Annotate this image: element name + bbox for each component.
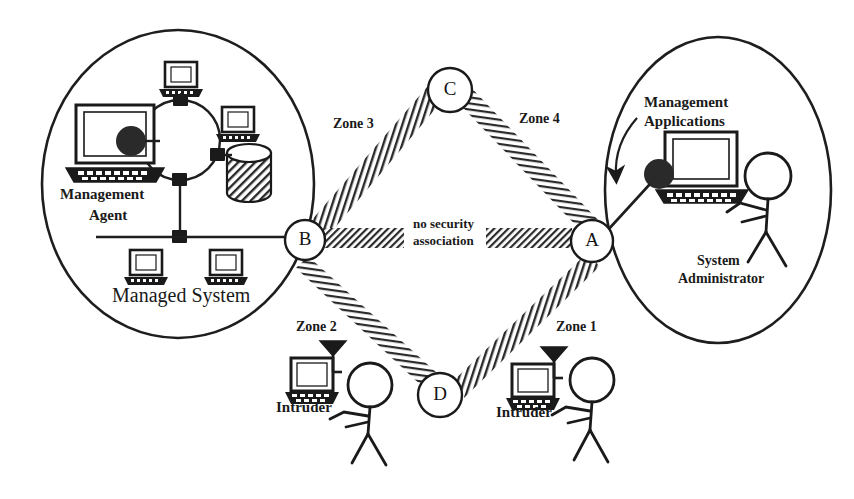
management-applications-label-line1: Management [644, 94, 728, 110]
workstation-icon-bottom-right [204, 250, 248, 285]
intruder-laptop-icon-left [285, 341, 346, 404]
no-security-association-line2: association [413, 233, 474, 248]
system-administrator-label-line2: Administrator [678, 271, 764, 286]
workstation-icon-right [216, 107, 260, 142]
intruder-stick-figure-icon-left [330, 363, 392, 465]
zone-1-label: Zone 1 [556, 319, 597, 334]
zone-4-label: Zone 4 [519, 111, 560, 126]
no-security-association-line1: no security [413, 216, 475, 231]
node-b[interactable]: B [285, 220, 325, 260]
management-agent-label-line2: Agent [89, 207, 127, 223]
management-agent-label-line1: Management [60, 186, 144, 202]
management-agent-blob-icon [116, 126, 146, 156]
management-applications-group [605, 37, 831, 343]
node-c[interactable]: C [428, 68, 472, 112]
zone-3-label: Zone 3 [333, 116, 374, 131]
zone-2-label: Zone 2 [296, 319, 337, 334]
node-d-label: D [433, 383, 447, 404]
node-c-label: C [444, 78, 457, 99]
network-security-zones-diagram: B A C D Zone 3 Zone 4 Zone 2 Zone 1 no s… [0, 0, 854, 499]
intruder-label-left: Intruder [276, 399, 332, 415]
workstation-icon-top [159, 62, 203, 97]
node-d[interactable]: D [418, 373, 462, 417]
node-a-label: A [585, 229, 599, 250]
managed-system-label: Managed System [112, 284, 251, 307]
node-b-label: B [299, 228, 312, 249]
intruder-stick-figure-icon-right [552, 358, 614, 462]
management-applications-label-line2: Applications [644, 113, 725, 129]
system-administrator-label-line1: System [697, 253, 740, 268]
callout-arrow-icon [616, 118, 637, 176]
database-cylinder-icon [227, 144, 271, 202]
intruder-label-right: Intruder [496, 404, 552, 420]
node-a[interactable]: A [571, 220, 613, 262]
diagram-canvas: B A C D Zone 3 Zone 4 Zone 2 Zone 1 no s… [0, 0, 854, 499]
application-to-node-a-link [607, 184, 650, 231]
workstation-icon-bottom-left [124, 250, 168, 285]
management-agent-workstation-icon [66, 105, 164, 182]
intruder-laptop-icon-right [506, 347, 567, 410]
